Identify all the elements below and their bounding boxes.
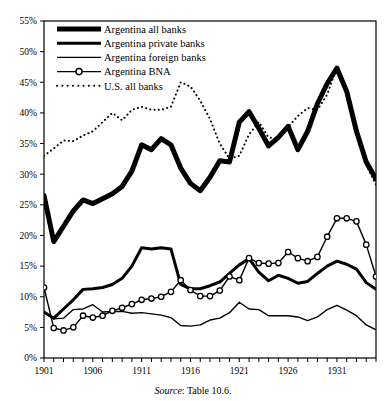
series-marker-3 xyxy=(315,254,320,259)
x-axis-tick-label: 1926 xyxy=(279,366,298,376)
series-marker-3 xyxy=(344,216,349,221)
y-axis-tick-label: 5% xyxy=(24,323,37,333)
series-marker-3 xyxy=(266,261,271,266)
series-line-0 xyxy=(44,68,376,241)
source-text: : Table 10.6. xyxy=(182,385,232,396)
series-marker-3 xyxy=(246,255,251,260)
series-marker-3 xyxy=(110,308,115,313)
legend-label-0: Argentina all banks xyxy=(104,24,186,35)
series-marker-3 xyxy=(158,294,163,299)
legend-label-2: Argentina foreign banks xyxy=(104,52,206,63)
series-marker-3 xyxy=(295,255,300,260)
series-line-1 xyxy=(44,248,376,318)
series-marker-3 xyxy=(139,297,144,302)
x-axis-tick-label: 1921 xyxy=(230,366,249,376)
x-axis-tick-label: 1911 xyxy=(132,366,151,376)
series-marker-3 xyxy=(80,313,85,318)
chart-canvas: 0%5%10%15%20%25%30%35%40%45%50%55%190119… xyxy=(0,0,386,401)
y-axis-tick-label: 35% xyxy=(20,139,38,149)
series-marker-3 xyxy=(119,305,124,310)
series-marker-3 xyxy=(364,242,369,247)
series-marker-3 xyxy=(285,249,290,254)
series-marker-3 xyxy=(198,293,203,298)
series-marker-3 xyxy=(217,288,222,293)
series-marker-3 xyxy=(90,315,95,320)
source-label: Source xyxy=(154,385,181,396)
series-marker-3 xyxy=(305,258,310,263)
series-marker-3 xyxy=(354,219,359,224)
series-marker-3 xyxy=(207,293,212,298)
series-marker-3 xyxy=(71,325,76,330)
y-axis-tick-label: 30% xyxy=(20,170,38,180)
series-marker-3 xyxy=(334,216,339,221)
series-marker-3 xyxy=(178,277,183,282)
legend-label-1: Argentina private banks xyxy=(104,38,205,49)
series-marker-3 xyxy=(324,234,329,239)
series-marker-3 xyxy=(188,287,193,292)
source-caption: Source: Table 10.6. xyxy=(0,385,386,396)
series-marker-3 xyxy=(149,296,154,301)
series-marker-3 xyxy=(129,301,134,306)
figure-container: 0%5%10%15%20%25%30%35%40%45%50%55%190119… xyxy=(0,0,386,401)
y-axis-tick-label: 20% xyxy=(20,231,38,241)
y-axis-tick-label: 0% xyxy=(24,353,37,363)
legend-label-4: U.S. all banks xyxy=(104,81,163,92)
series-marker-3 xyxy=(276,260,281,265)
x-axis-tick-label: 1901 xyxy=(35,366,54,376)
y-axis-tick-label: 55% xyxy=(20,16,38,26)
x-axis-tick-label: 1906 xyxy=(83,366,102,376)
series-marker-3 xyxy=(256,260,261,265)
y-axis-tick-label: 15% xyxy=(20,261,38,271)
series-marker-3 xyxy=(237,277,242,282)
series-marker-3 xyxy=(373,274,378,279)
y-axis-tick-label: 40% xyxy=(20,108,38,118)
y-axis-tick-label: 10% xyxy=(20,292,38,302)
legend-marker-3 xyxy=(76,69,82,75)
x-axis-tick-label: 1916 xyxy=(181,366,200,376)
series-marker-3 xyxy=(61,328,66,333)
x-axis-tick-label: 1931 xyxy=(327,366,346,376)
series-marker-3 xyxy=(227,274,232,279)
series-marker-3 xyxy=(41,285,46,290)
legend-label-3: Argentina BNA xyxy=(104,66,171,77)
series-marker-3 xyxy=(100,313,105,318)
series-marker-3 xyxy=(168,289,173,294)
series-marker-3 xyxy=(51,325,56,330)
y-axis-tick-label: 25% xyxy=(20,200,38,210)
y-axis-tick-label: 45% xyxy=(20,78,38,88)
y-axis-tick-label: 50% xyxy=(20,47,38,57)
